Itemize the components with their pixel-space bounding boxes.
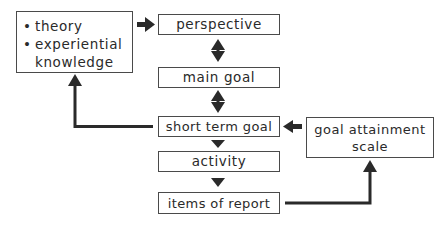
perspective-label: perspective — [176, 18, 262, 32]
short-term-goal-label: short term goal — [166, 120, 272, 133]
sources-item-knowledge: knowledge — [35, 54, 114, 70]
list-item: •theory — [23, 17, 132, 35]
goal-attainment-scale-box: goal attainment scale — [306, 117, 434, 158]
bullet-icon: • — [23, 35, 35, 53]
arrow-short-term-to-activity — [211, 140, 225, 148]
sources-item-theory: theory — [35, 18, 83, 34]
sources-item-experiential: experiential — [35, 36, 122, 52]
list-item: •experiential — [23, 35, 132, 53]
goal-attainment-scale-line1: goal attainment — [314, 121, 425, 138]
arrow-activity-to-items — [211, 178, 225, 187]
activity-box: activity — [158, 151, 280, 172]
diagram-canvas: •theory •experiential knowledge perspect… — [0, 0, 448, 228]
activity-label: activity — [192, 155, 247, 169]
arrow-sources-to-perspective — [137, 17, 155, 32]
main-goal-label: main goal — [183, 71, 255, 85]
elbow-arrow-short-term-to-sources — [68, 74, 153, 127]
double-arrow-perspective-main-goal — [211, 39, 225, 62]
short-term-goal-box: short term goal — [158, 116, 280, 137]
arrow-gas-to-short-term — [283, 120, 302, 133]
goal-attainment-scale-line2: scale — [352, 138, 388, 155]
sources-box: •theory •experiential knowledge — [16, 11, 133, 73]
items-of-report-box: items of report — [158, 192, 280, 214]
main-goal-box: main goal — [158, 67, 280, 88]
items-of-report-label: items of report — [168, 197, 271, 210]
perspective-box: perspective — [158, 14, 280, 35]
list-item: knowledge — [23, 53, 132, 71]
sources-list: •theory •experiential knowledge — [23, 17, 132, 71]
bullet-icon: • — [23, 17, 35, 35]
double-arrow-main-goal-short-term — [211, 90, 225, 113]
elbow-arrow-items-to-gas — [285, 160, 377, 203]
